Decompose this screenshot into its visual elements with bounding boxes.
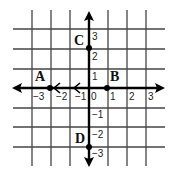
- x-tick: −1: [75, 91, 87, 102]
- y-tick: 3: [92, 31, 98, 42]
- y-tick: −2: [92, 129, 104, 140]
- point-a-dot: [47, 85, 53, 91]
- x-tick: 2: [129, 91, 135, 102]
- x-tick: 0: [91, 91, 97, 102]
- point-b-dot: [104, 85, 110, 91]
- y-tick: 1: [92, 71, 98, 82]
- x-tick: −3: [33, 91, 45, 102]
- point-d-label: D: [75, 131, 85, 146]
- point-b-label: B: [110, 69, 119, 84]
- point-c-label: C: [74, 33, 84, 48]
- x-tick: 1: [110, 91, 116, 102]
- x-tick: 3: [148, 91, 154, 102]
- point-a-label: A: [35, 69, 46, 84]
- coordinate-grid: −3 −2 −1 0 1 2 3 3 2 1 −1 −2 −3 A B C D: [0, 0, 173, 175]
- point-d-dot: [86, 144, 92, 150]
- x-tick: −2: [56, 91, 68, 102]
- y-tick: 2: [92, 51, 98, 62]
- y-tick: −3: [92, 148, 104, 159]
- y-tick: −1: [92, 109, 104, 120]
- point-c-dot: [86, 45, 92, 51]
